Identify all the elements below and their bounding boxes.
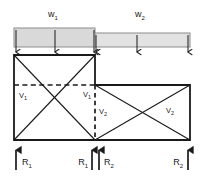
reaction-group-r2-right: R2 — [173, 150, 188, 170]
load-label-w1: w1 — [47, 9, 59, 21]
structural-diagram: w1 w2 V — [0, 0, 206, 176]
reaction-group-r2-center: R2 — [99, 150, 115, 170]
load-group-w2: w2 — [95, 9, 190, 52]
reaction-label-r1-left: R1 — [22, 157, 33, 169]
reaction-label-r2-center: R2 — [104, 157, 115, 169]
load-group-w1: w1 — [14, 9, 95, 52]
reaction-label-r1-center: R1 — [78, 157, 89, 169]
frame-load-diagram: w1 w2 V — [0, 0, 206, 176]
load-bar-w2 — [95, 33, 190, 47]
load-label-w2: w2 — [134, 9, 146, 21]
reaction-label-r2-right: R2 — [173, 157, 184, 169]
reaction-group-r1-center: R1 — [78, 150, 92, 170]
reaction-group-r1-left: R1 — [16, 150, 33, 170]
frame-outline — [14, 55, 190, 140]
